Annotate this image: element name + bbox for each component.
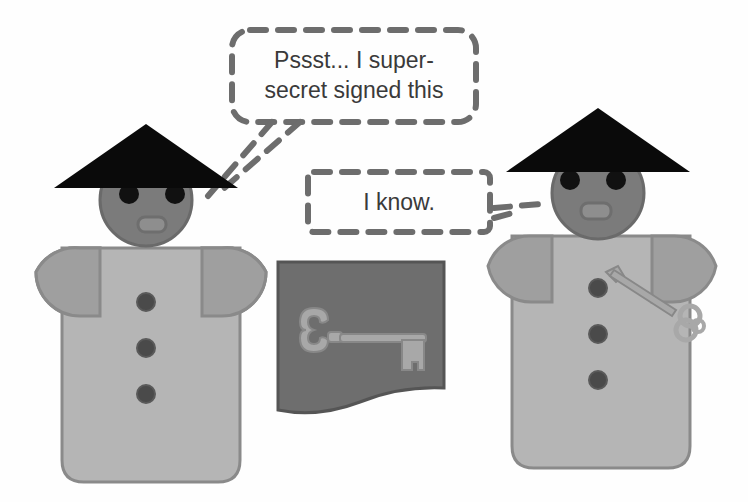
- speech-line: Pssst... I super-: [236, 45, 472, 75]
- conical-hat: [54, 124, 238, 188]
- speech-bubble-right-text: I know.: [312, 187, 486, 217]
- speech-bubble-left-text: Pssst... I super- secret signed this: [236, 45, 472, 105]
- eye: [606, 170, 626, 190]
- signed-document: [278, 262, 444, 413]
- coat-button: [589, 371, 607, 389]
- right-person: [488, 108, 716, 468]
- coat-button: [589, 279, 607, 297]
- left-arm: [488, 236, 552, 302]
- coat-button: [137, 339, 155, 357]
- speech-line: I know.: [312, 187, 486, 217]
- left-person: [36, 124, 266, 482]
- coat-button: [137, 385, 155, 403]
- mouth: [581, 203, 611, 219]
- eye: [560, 170, 580, 190]
- mouth: [138, 217, 166, 232]
- right-arm: [652, 236, 716, 302]
- illustration-canvas: Pssst... I super- secret signed this I k…: [0, 0, 748, 502]
- coat-button: [137, 293, 155, 311]
- coat-button: [589, 325, 607, 343]
- speech-line: secret signed this: [236, 75, 472, 105]
- conical-hat: [506, 108, 690, 172]
